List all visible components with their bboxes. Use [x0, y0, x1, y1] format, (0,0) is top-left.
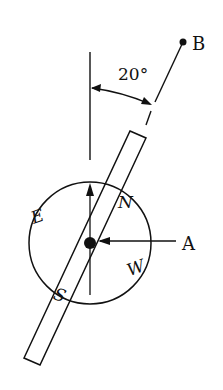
label-east: E	[27, 205, 47, 229]
compass-diagram: B 20° A N E W S	[0, 0, 223, 390]
pivot-dot	[84, 237, 96, 249]
label-north: N	[117, 192, 134, 212]
label-a: A	[181, 233, 196, 254]
point-b-dot	[180, 39, 187, 46]
diagram-canvas: B 20° A N E W S	[0, 0, 223, 390]
dashed-extension	[146, 111, 151, 125]
label-south: S	[51, 284, 69, 307]
angle-arc	[92, 88, 150, 104]
bar	[24, 131, 146, 365]
label-angle: 20°	[118, 64, 148, 84]
line-to-b	[155, 42, 183, 102]
angle-arrow-right-icon	[141, 97, 152, 105]
north-arrow-icon	[86, 183, 94, 196]
label-b: B	[192, 33, 205, 54]
angle-arrow-left-icon	[91, 84, 101, 92]
